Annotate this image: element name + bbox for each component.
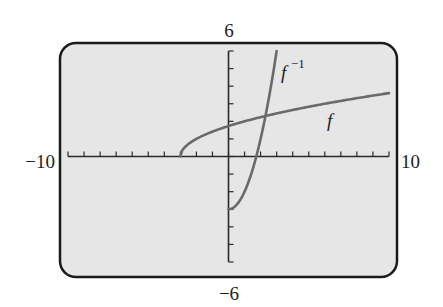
xmin-label: −10 <box>25 151 55 172</box>
xmax-label: 10 <box>401 151 420 172</box>
ymax-label: 6 <box>224 20 234 41</box>
ymin-label: −6 <box>219 283 239 304</box>
f-inverse-superscript: −1 <box>291 56 305 71</box>
calculator-graph: 6 −6 −10 10 f −1 f <box>0 0 443 307</box>
